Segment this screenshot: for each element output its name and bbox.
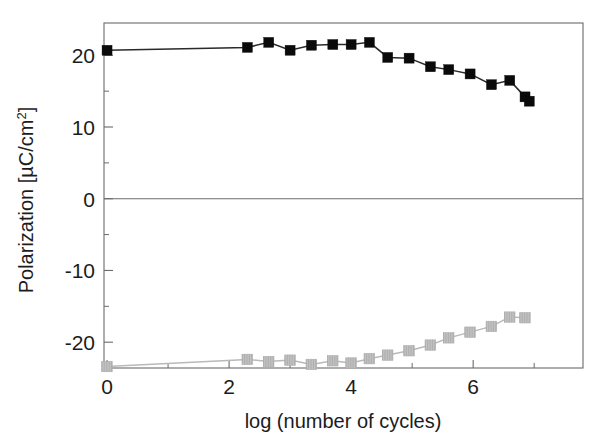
x-axis-title: log (number of cycles) xyxy=(245,410,442,432)
data-point-marker xyxy=(306,40,316,50)
y-tick-label: -10 xyxy=(65,259,95,282)
series-negative-polarization xyxy=(102,312,530,372)
y-axis-tick-labels: 20100-10-20 xyxy=(65,44,95,354)
data-point-marker xyxy=(383,52,393,62)
x-tick-label: 6 xyxy=(467,375,479,398)
x-axis-tick-labels: 0246 xyxy=(101,375,479,398)
y-axis-title-superscript: 2 xyxy=(14,112,29,119)
data-point-marker xyxy=(465,69,475,79)
y-tick-label: 20 xyxy=(72,44,95,67)
data-point-marker xyxy=(524,96,534,106)
data-point-marker xyxy=(306,359,316,369)
data-point-marker xyxy=(328,40,338,50)
x-tick-label: 0 xyxy=(101,375,113,398)
series-positive-polarization xyxy=(102,37,534,106)
data-point-marker xyxy=(425,340,435,350)
data-point-marker xyxy=(285,45,295,55)
data-point-marker xyxy=(264,37,274,47)
polarization-fatigue-chart: 0246 20100-10-20 log (number of cycles) … xyxy=(0,0,615,443)
y-tick-label: 0 xyxy=(83,188,95,211)
chart-figure: 0246 20100-10-20 log (number of cycles) … xyxy=(0,0,615,443)
y-axis-title-tail: ] xyxy=(15,107,37,113)
data-point-marker xyxy=(520,313,530,323)
data-point-marker xyxy=(505,75,515,85)
data-point-marker xyxy=(425,62,435,72)
data-point-marker xyxy=(404,53,414,63)
y-axis-title: Polarization [µC/cm2] xyxy=(14,107,37,294)
y-tick-label: -20 xyxy=(65,331,95,354)
data-point-marker xyxy=(346,40,356,50)
y-axis-title-main: Polarization [µC/cm xyxy=(15,119,37,293)
y-tick-label: 10 xyxy=(72,116,95,139)
data-point-marker xyxy=(444,65,454,75)
x-tick-label: 4 xyxy=(345,375,357,398)
y-axis-ticks xyxy=(104,55,583,342)
data-point-marker xyxy=(444,333,454,343)
svg-text:Polarization [µC/cm2]: Polarization [µC/cm2] xyxy=(14,107,37,294)
data-point-marker xyxy=(102,45,112,55)
data-point-marker xyxy=(364,37,374,47)
data-point-marker xyxy=(486,80,496,90)
x-tick-label: 2 xyxy=(223,375,235,398)
data-point-marker xyxy=(242,42,252,52)
